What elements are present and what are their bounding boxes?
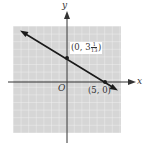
point-b-label: (5, 0) xyxy=(88,86,111,95)
point-x-intercept xyxy=(103,80,107,84)
x-axis-label: x xyxy=(137,77,142,86)
point-y-intercept xyxy=(65,56,69,60)
y-axis-arrow-icon xyxy=(64,11,70,19)
y-axis-label: y xyxy=(62,1,67,10)
origin-label: O xyxy=(58,84,65,93)
point-a-label: (0, 3113) xyxy=(70,42,102,54)
coordinate-plane xyxy=(0,0,144,146)
x-axis-arrow-icon xyxy=(128,79,136,85)
